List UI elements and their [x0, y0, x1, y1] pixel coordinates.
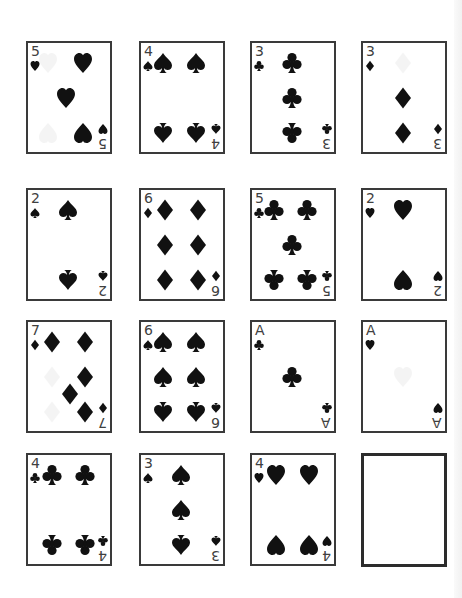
rank-label-top: 6	[144, 322, 153, 338]
rank-label-bottom: 2	[433, 283, 442, 299]
diamond-icon	[155, 269, 175, 291]
club-icon	[75, 464, 95, 486]
club-icon	[282, 366, 302, 388]
diamond-icon	[42, 401, 62, 423]
heart-icon	[73, 52, 93, 74]
club-icon	[30, 472, 40, 484]
heart-icon	[393, 366, 413, 388]
heart-icon	[365, 339, 375, 351]
diamond-icon	[155, 199, 175, 221]
playing-card-5-of-clubs[interactable]: 5 5	[250, 188, 336, 301]
heart-icon	[322, 535, 332, 547]
heart-icon	[365, 207, 375, 219]
empty-card-slot[interactable]	[361, 453, 447, 567]
spade-icon	[58, 269, 78, 291]
rank-label-bottom: 3	[211, 548, 220, 564]
playing-card-4-of-hearts[interactable]: 4 4	[250, 453, 336, 566]
club-icon	[297, 269, 317, 291]
spade-icon	[171, 499, 191, 521]
rank-label-bottom: A	[432, 415, 442, 431]
diamond-icon	[393, 87, 413, 109]
right-edge-strip	[454, 0, 462, 598]
spade-icon	[153, 366, 173, 388]
spade-icon	[30, 207, 40, 219]
heart-icon	[73, 122, 93, 144]
diamond-icon	[30, 339, 40, 351]
playing-card-5-of-hearts[interactable]: 5 5	[26, 41, 112, 154]
rank-label-top: 4	[144, 43, 153, 59]
playing-card-3-of-clubs[interactable]: 3 3	[250, 41, 336, 154]
rank-label-bottom: A	[321, 415, 331, 431]
rank-label-top: A	[366, 322, 376, 338]
club-icon	[282, 122, 302, 144]
diamond-icon	[393, 52, 413, 74]
playing-card-3-of-spades[interactable]: 3 3	[139, 453, 225, 566]
club-icon	[282, 87, 302, 109]
playing-card-2-of-spades[interactable]: 2 2	[26, 188, 112, 301]
heart-icon	[433, 402, 443, 414]
club-icon	[254, 60, 264, 72]
diamond-icon	[143, 207, 153, 219]
spade-icon	[58, 199, 78, 221]
diamond-icon	[393, 122, 413, 144]
spade-icon	[211, 535, 221, 547]
diamond-icon	[211, 270, 221, 282]
rank-label-bottom: 7	[98, 415, 107, 431]
spade-icon	[186, 52, 206, 74]
rank-label-bottom: 5	[98, 136, 107, 152]
spade-icon	[153, 52, 173, 74]
rank-label-bottom: 2	[98, 283, 107, 299]
club-icon	[254, 207, 264, 219]
rank-label-bottom: 6	[211, 415, 220, 431]
rank-label-top: 3	[366, 43, 375, 59]
playing-card-4-of-spades[interactable]: 4 4	[139, 41, 225, 154]
heart-icon	[433, 270, 443, 282]
club-icon	[264, 269, 284, 291]
spade-icon	[153, 401, 173, 423]
club-icon	[322, 402, 332, 414]
playing-card-4-of-clubs[interactable]: 4 4	[26, 453, 112, 566]
rank-label-top: 3	[144, 455, 153, 471]
playing-card-6-of-spades[interactable]: 6 6	[139, 320, 225, 433]
rank-label-top: 5	[255, 190, 264, 206]
diamond-icon	[433, 123, 443, 135]
playing-card-a-of-clubs[interactable]: A A	[250, 320, 336, 433]
club-icon	[322, 270, 332, 282]
club-icon	[42, 534, 62, 556]
heart-icon	[393, 199, 413, 221]
spade-icon	[211, 402, 221, 414]
rank-label-bottom: 3	[433, 136, 442, 152]
heart-icon	[299, 534, 319, 556]
club-icon	[42, 464, 62, 486]
heart-icon	[254, 472, 264, 484]
heart-icon	[98, 123, 108, 135]
rank-label-bottom: 3	[322, 136, 331, 152]
rank-label-top: 7	[31, 322, 40, 338]
spade-icon	[186, 122, 206, 144]
diamond-icon	[155, 234, 175, 256]
heart-icon	[38, 52, 58, 74]
playing-card-2-of-hearts[interactable]: 2 2	[361, 188, 447, 301]
playing-card-a-of-hearts[interactable]: A A	[361, 320, 447, 433]
club-icon	[282, 234, 302, 256]
club-icon	[254, 339, 264, 351]
diamond-icon	[75, 401, 95, 423]
rank-label-top: 4	[31, 455, 40, 471]
spade-icon	[143, 339, 153, 351]
playing-card-6-of-diamonds[interactable]: 6 6	[139, 188, 225, 301]
diamond-icon	[42, 331, 62, 353]
diamond-icon	[42, 366, 62, 388]
rank-label-bottom: 4	[322, 548, 331, 564]
diamond-icon	[188, 234, 208, 256]
spade-icon	[171, 534, 191, 556]
spade-icon	[186, 401, 206, 423]
spade-icon	[98, 270, 108, 282]
heart-icon	[266, 534, 286, 556]
rank-label-top: 6	[144, 190, 153, 206]
playing-card-7-of-diamonds[interactable]: 7 7	[26, 320, 112, 433]
spade-icon	[143, 472, 153, 484]
playing-card-3-of-diamonds[interactable]: 3 3	[361, 41, 447, 154]
heart-icon	[38, 122, 58, 144]
diamond-icon	[75, 331, 95, 353]
club-icon	[297, 199, 317, 221]
